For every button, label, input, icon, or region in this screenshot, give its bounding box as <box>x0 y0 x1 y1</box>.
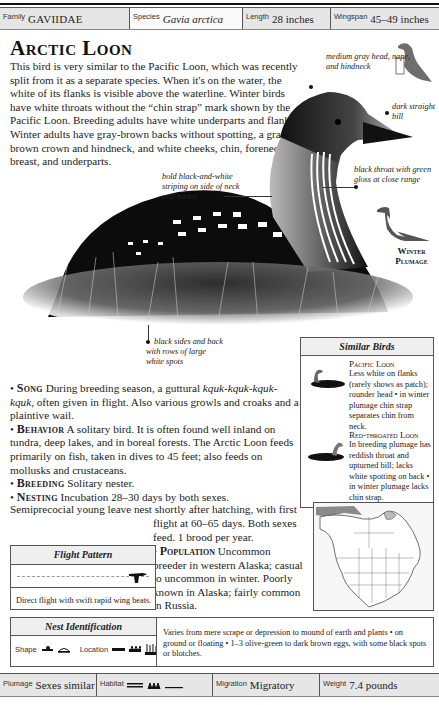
nesting-text-3: flight at 60–65 days. Both sexes feed. 1… <box>153 517 303 544</box>
ground-location-icon <box>112 645 125 653</box>
north-america-map <box>314 503 433 610</box>
species-value: Gavia arctica <box>163 13 223 25</box>
migration-cell: Migration Migratory <box>213 674 320 696</box>
range-map <box>313 502 434 611</box>
forest-habitat-icon <box>147 681 161 689</box>
species-cell: Species Gavia arctica <box>130 8 243 29</box>
pacific-loon-name: Pacific Loon <box>349 359 433 369</box>
winter-plumage-bird-icon <box>375 205 435 245</box>
page-title: Arctic Loon <box>10 36 132 61</box>
red-throated-loon-text: In breeding plumage has reddish throat a… <box>349 440 433 503</box>
tundra-habitat-icon <box>165 681 183 689</box>
similar-birds-box: Similar Birds Pacific Loon Less white on… <box>300 337 434 508</box>
callout-throat: black throat with green gloss at close r… <box>354 165 436 185</box>
nest-description: Varies from mere scrape or depression to… <box>157 618 433 666</box>
song-paragraph: • Song During breeding season, a guttura… <box>10 382 300 423</box>
plumage-label: Plumage <box>3 679 33 688</box>
migration-value: Migratory <box>250 679 295 691</box>
length-value: 28 inches <box>272 13 314 25</box>
length-cell: Length 28 inches <box>243 8 331 29</box>
flight-bird-icon <box>129 568 149 584</box>
mound-nest-icon <box>57 645 70 653</box>
breeding-text: Solitary nester. <box>67 477 134 489</box>
wingspan-label: Wingspan <box>334 12 367 21</box>
song-text: During breeding season, a guttural <box>46 382 200 394</box>
red-throated-loon-name: Red-throated Loon <box>349 430 433 440</box>
behavior-paragraph: • Behavior A solitary bird. It is often … <box>10 423 300 477</box>
similar-bird-pacific: Pacific Loon Less white on flanks (rarel… <box>349 359 433 432</box>
weight-label: Weight <box>323 679 346 688</box>
family-value: GAVIIDAE <box>28 13 83 25</box>
pacific-loon-text: Less white on flanks (rarely shows as pa… <box>349 369 433 432</box>
flight-pattern-box: Flight Pattern Direct flight with swift … <box>10 545 156 610</box>
nest-identification-box: Nest Identification Shape Location Varie… <box>10 617 434 667</box>
flight-pattern-heading: Flight Pattern <box>11 546 155 565</box>
behavior-heading: Behavior <box>17 422 65 436</box>
wingspan-value: 45–49 inches <box>370 13 428 25</box>
callout-throat-line <box>323 187 356 188</box>
lake-habitat-icon <box>127 681 143 689</box>
breeding-paragraph: • Breeding Solitary nester. <box>10 477 300 491</box>
callout-throat-dot <box>354 185 358 189</box>
habitat-label: Habitat <box>100 679 124 688</box>
nest-shape-label: Shape <box>15 645 37 654</box>
facts-section: • Song During breeding season, a guttura… <box>10 382 300 504</box>
plumage-cell: Plumage Sexes similar <box>0 674 97 696</box>
callout-head: medium gray head, nape, and hindneck <box>326 52 416 72</box>
nest-icons-row: Shape Location <box>11 636 156 655</box>
plumage-value: Sexes similar <box>36 679 95 691</box>
similar-birds-heading: Similar Birds <box>301 338 433 356</box>
nest-location-label: Location <box>80 645 108 654</box>
callout-bill: dark straight bill <box>392 102 437 122</box>
callout-bill-dot <box>385 111 389 115</box>
population-paragraph: • Population Uncommon breeder in western… <box>153 545 305 613</box>
breeding-heading: Breeding <box>17 476 65 490</box>
nest-heading: Nest Identification <box>11 618 156 636</box>
footer-bar: Plumage Sexes similar Habitat Migration … <box>0 673 439 697</box>
arctic-loon-illustration <box>18 92 418 337</box>
weight-cell: Weight 7.4 pounds <box>320 674 439 696</box>
callout-striping: bold black-and-white striping on side of… <box>162 172 242 202</box>
song-text-2: , often given in flight. Also various gr… <box>10 396 299 422</box>
pacific-loon-icon <box>306 368 346 390</box>
wingspan-cell: Wingspan 45–49 inches <box>331 8 439 29</box>
header-bar: Family GAVIIDAE Species Gavia arctica Le… <box>0 7 439 30</box>
red-throated-loon-icon <box>306 440 346 464</box>
length-label: Length <box>246 12 269 21</box>
winter-plumage-label: Winter Plumage <box>384 246 439 266</box>
water-edge-location-icon <box>129 645 142 653</box>
scrape-nest-icon <box>41 645 54 653</box>
callout-head-dot <box>309 85 313 89</box>
family-cell: Family GAVIIDAE <box>0 8 130 29</box>
species-label: Species <box>133 12 160 21</box>
nesting-text: Incubation 28–30 days by both sexes. <box>61 491 229 503</box>
top-rule <box>0 3 439 5</box>
nest-left-panel: Nest Identification Shape Location <box>11 618 157 666</box>
marsh-location-icon <box>145 643 156 655</box>
nesting-heading: Nesting <box>17 490 58 504</box>
nesting-text-2: Semiprecocial young leave nest shortly a… <box>10 503 310 517</box>
song-heading: Song <box>17 381 43 395</box>
family-label: Family <box>3 12 25 21</box>
callout-sides: black sides and back with rows of large … <box>146 337 226 367</box>
weight-value: 7.4 pounds <box>349 679 397 691</box>
flight-pattern-diagram <box>11 565 155 588</box>
population-heading: Population <box>160 544 215 558</box>
habitat-cell: Habitat <box>97 674 213 696</box>
callout-striping-line <box>224 196 272 197</box>
flight-pattern-text: Direct flight with swift rapid wing beat… <box>11 588 155 605</box>
similar-bird-red-throated: Red-throated Loon In breeding plumage ha… <box>349 430 433 503</box>
migration-label: Migration <box>216 679 247 688</box>
